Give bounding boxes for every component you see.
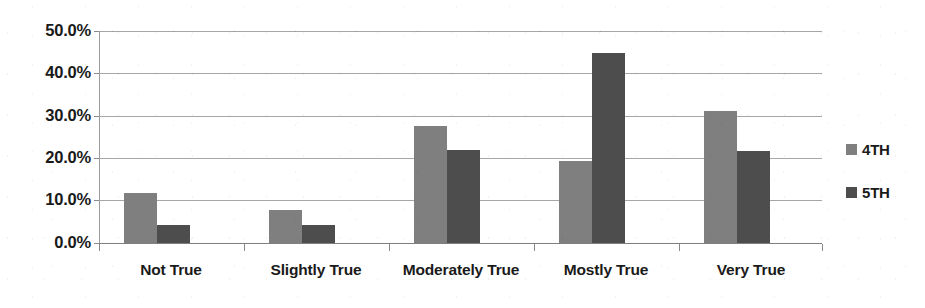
legend-swatch-icon-4th <box>846 144 857 155</box>
x-axis-tick-mark <box>99 244 100 251</box>
bar-5th-mostly-true <box>592 53 625 243</box>
y-axis-tick-label: 40.0% <box>45 63 91 82</box>
bar-4th-slightly-true <box>269 210 302 243</box>
x-axis-label-mostly-true: Mostly True <box>564 261 648 279</box>
gridline-0-baseline <box>99 243 822 244</box>
y-axis-tick-label: 30.0% <box>45 106 91 125</box>
legend-label-4th: 4TH <box>862 141 890 158</box>
chart-legend: 4TH 5TH <box>846 138 890 224</box>
y-axis-labels: 50.0% 40.0% 30.0% 20.0% 10.0% 0.0% <box>0 0 91 308</box>
bar-4th-moderately-true <box>414 126 447 243</box>
gridline-50 <box>99 31 822 32</box>
legend-swatch-icon-5th <box>846 187 857 198</box>
y-axis-tick-label: 20.0% <box>45 148 91 167</box>
x-axis-label-slightly-true: Slightly True <box>270 261 361 279</box>
bar-4th-not-true <box>124 193 157 243</box>
x-axis-tick-mark <box>822 244 823 251</box>
x-axis-label-very-true: Very True <box>717 261 785 279</box>
x-axis-tick-mark <box>244 244 245 251</box>
gridline-40 <box>99 73 822 74</box>
bar-5th-not-true <box>157 225 190 243</box>
legend-item-4th: 4TH <box>846 138 890 160</box>
legend-label-5th: 5TH <box>862 184 890 201</box>
plot-area <box>99 31 822 243</box>
bar-4th-very-true <box>704 111 737 243</box>
x-axis-tick-mark <box>534 244 535 251</box>
bar-5th-moderately-true <box>447 150 480 243</box>
y-axis-tick-label: 10.0% <box>45 190 91 209</box>
bar-5th-very-true <box>737 151 770 243</box>
y-axis-tick-label: 50.0% <box>45 21 91 40</box>
x-axis-tick-mark <box>679 244 680 251</box>
y-axis-tick-label: 0.0% <box>54 233 91 252</box>
legend-item-5th: 5TH <box>846 181 890 203</box>
x-axis-label-not-true: Not True <box>140 261 202 279</box>
bar-5th-slightly-true <box>302 225 335 243</box>
x-axis-tick-mark <box>389 244 390 251</box>
bar-chart: 50.0% 40.0% 30.0% 20.0% 10.0% 0.0% <box>0 0 925 308</box>
bar-4th-mostly-true <box>559 161 592 243</box>
x-axis-label-moderately-true: Moderately True <box>403 261 520 279</box>
